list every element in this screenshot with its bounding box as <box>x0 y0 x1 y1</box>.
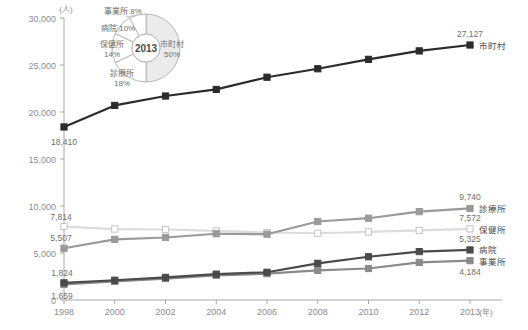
donut-pct-保健所: 14% <box>104 50 120 59</box>
y-axis-tick-label: 30,000 <box>28 14 56 24</box>
series-marker <box>264 269 270 275</box>
series-marker <box>315 230 321 236</box>
series-marker <box>61 280 67 286</box>
series-marker <box>467 205 473 211</box>
series-marker <box>112 102 118 108</box>
donut-pct-市町村: 50% <box>164 50 180 59</box>
x-axis-tick-label: 2000 <box>105 307 125 317</box>
series-marker <box>315 66 321 72</box>
series-marker <box>162 226 168 232</box>
series-marker <box>112 226 118 232</box>
series-marker <box>365 229 371 235</box>
y-axis-tick-label: 20,000 <box>28 108 56 118</box>
y-axis-unit-label: (人) <box>59 5 73 14</box>
series-病院 <box>61 247 473 286</box>
y-axis-tick-label: 5,000 <box>33 249 56 259</box>
donut-label-診療所: 診療所 <box>110 68 134 78</box>
x-axis-unit-label: (年) <box>479 307 493 317</box>
series-marker <box>416 227 422 233</box>
donut-label-市町村: 市町村 <box>160 39 184 49</box>
x-axis-tick-label: 2006 <box>257 307 277 317</box>
donut-label-事業所: 事業所 8% <box>104 6 142 16</box>
series-start-value: 7,814 <box>50 212 72 222</box>
series-end-value: 9,740 <box>459 192 481 202</box>
x-axis-tick-label: 2008 <box>308 307 328 317</box>
series-marker <box>264 74 270 80</box>
series-marker <box>213 231 219 237</box>
series-marker <box>416 48 422 54</box>
series-marker <box>162 93 168 99</box>
series-marker <box>416 209 422 215</box>
series-marker <box>112 277 118 283</box>
series-legend-label: 事業所 <box>479 257 506 267</box>
series-legend-label: 市町村 <box>479 41 506 51</box>
series-marker <box>213 271 219 277</box>
series-start-value: 5,507 <box>50 233 72 243</box>
donut-label-保健所: 保健所 <box>100 39 124 49</box>
x-axis-tick-label: 2012 <box>409 307 429 317</box>
series-marker <box>467 226 473 232</box>
series-marker <box>61 245 67 251</box>
series-marker <box>315 267 321 273</box>
x-axis-tick-label: 2002 <box>155 307 175 317</box>
series-marker <box>365 56 371 62</box>
series-line <box>64 250 470 283</box>
series-end-value: 4,184 <box>459 267 481 277</box>
series-marker <box>61 124 67 130</box>
donut-pct-診療所: 18% <box>114 79 130 88</box>
series-marker <box>365 215 371 221</box>
x-axis-tick-label: 2004 <box>206 307 226 317</box>
series-end-value: 5,325 <box>459 234 481 244</box>
chart-canvas: 05,00010,00015,00020,00025,00030,000(人)1… <box>0 0 528 330</box>
series-legend-label: 保健所 <box>479 225 506 235</box>
series-end-value: 27,127 <box>457 29 483 39</box>
series-marker <box>61 223 67 229</box>
series-marker <box>264 231 270 237</box>
series-marker <box>315 260 321 266</box>
series-marker <box>416 248 422 254</box>
series-marker <box>467 247 473 253</box>
series-marker <box>467 258 473 264</box>
series-marker <box>467 42 473 48</box>
series-start-value: 1,824 <box>51 268 73 278</box>
series-marker <box>162 274 168 280</box>
series-marker <box>213 86 219 92</box>
series-legend-label: 病院 <box>479 245 497 255</box>
series-marker <box>416 259 422 265</box>
series-marker <box>112 236 118 242</box>
series-marker <box>315 218 321 224</box>
x-axis-tick-label: 2013 <box>460 307 480 317</box>
x-axis-tick-label: 1998 <box>54 307 74 317</box>
series-start-value: 18,410 <box>51 137 77 147</box>
series-marker <box>365 265 371 271</box>
y-axis-tick-label: 15,000 <box>28 155 56 165</box>
line-chart-figure: 05,00010,00015,00020,00025,00030,000(人)1… <box>0 0 528 330</box>
donut-chart: 2013市町村50%診療所18%保健所14%病院 10%事業所 8% <box>100 6 184 88</box>
donut-center-year: 2013 <box>135 43 158 54</box>
y-axis-tick-label: 25,000 <box>28 61 56 71</box>
donut-label-病院: 病院 10% <box>101 23 135 33</box>
series-marker <box>365 254 371 260</box>
series-legend-label: 診療所 <box>479 204 506 214</box>
series-end-value: 7,572 <box>459 213 481 223</box>
series-marker <box>162 234 168 240</box>
y-axis-tick-label: 10,000 <box>28 202 56 212</box>
x-axis-tick-label: 2010 <box>358 307 378 317</box>
series-start-value: 1,659 <box>51 291 73 301</box>
